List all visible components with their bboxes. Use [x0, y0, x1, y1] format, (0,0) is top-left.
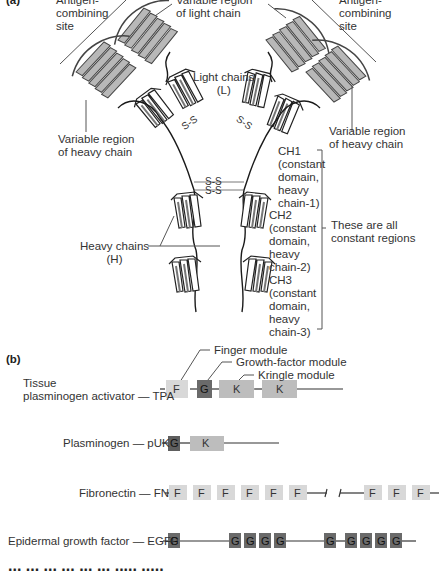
module-f: F [393, 487, 400, 500]
module-k: K [233, 383, 240, 396]
fn-name: Fibronectin — FN [79, 487, 169, 500]
label-line: (constant [269, 287, 316, 300]
label-line: of heavy chain [58, 146, 135, 159]
label-line: chain-3) [269, 326, 316, 339]
module-g: G [246, 535, 255, 548]
hinge-disulfide-bottom: S-S [205, 184, 222, 197]
egfp-name: Epidermal growth factor — EGFP [8, 535, 179, 548]
label-line: domain, [278, 171, 325, 184]
antigen-site-label-left: Antigen- combining site [56, 0, 108, 33]
ch3-label: CH3 (constant domain, heavy chain-3) [269, 274, 316, 339]
label-line: CH3 [269, 274, 316, 287]
module-f: F [222, 487, 229, 500]
label-line: of light chain [176, 7, 253, 20]
module-f: F [174, 487, 181, 500]
module-g: G [261, 535, 270, 548]
label-line: of heavy chain [329, 138, 406, 151]
label-line: (L) [193, 84, 254, 97]
label-line: combining [339, 7, 391, 20]
module-g: G [347, 535, 356, 548]
variable-heavy-label-left: Variable region of heavy chain [58, 133, 135, 159]
label-line: heavy [278, 184, 325, 197]
label-line: combining [56, 7, 108, 20]
panel-b-label: (b) [6, 353, 21, 365]
light-chains-label: Light chains (L) [193, 71, 254, 97]
ch2-label: CH2 (constant domain, heavy chain-2) [269, 209, 316, 274]
label-line: Antigen- [339, 0, 391, 7]
legend-kringle-module: Kringle module [258, 369, 335, 382]
label-line: CH1 [278, 145, 325, 158]
label-line: Variable region [58, 133, 135, 146]
module-g: G [377, 535, 386, 548]
module-g: G [326, 535, 335, 548]
tpa-name: Tissue plasminogen activator — TPA [23, 377, 174, 403]
label-line: Antigen- [56, 0, 108, 7]
module-k: K [276, 383, 283, 396]
ch1-label: CH1 (constant domain, heavy chain-1) [278, 145, 325, 210]
module-f: F [294, 487, 301, 500]
label-line: (constant [269, 222, 316, 235]
label-line: site [339, 20, 391, 33]
module-g: G [276, 535, 285, 548]
module-g: G [392, 535, 401, 548]
label-line: chain-2) [269, 261, 316, 274]
module-f: F [246, 487, 253, 500]
module-f: F [417, 487, 424, 500]
module-f: F [369, 487, 376, 500]
label-line: (constant [278, 158, 325, 171]
label-line: These are all [331, 219, 415, 232]
label-line: CH2 [269, 209, 316, 222]
label-line: heavy [269, 313, 316, 326]
caption-fragment: ... ... ... ... ... ... ..... ..... [8, 557, 164, 575]
antigen-site-label-right: Antigen- combining site [339, 0, 391, 33]
module-g: G [231, 535, 240, 548]
module-f: F [270, 487, 277, 500]
label-line: domain, [269, 300, 316, 313]
label-line: domain, [269, 235, 316, 248]
label-line: constant regions [331, 232, 415, 245]
label-line: Heavy chains [80, 240, 149, 253]
tpa-row [160, 380, 343, 398]
module-f: F [198, 487, 205, 500]
module-f: F [173, 383, 180, 396]
panel-a-label: (a) [6, 0, 20, 6]
label-line: heavy [269, 248, 316, 261]
heavy-chains-label: Heavy chains (H) [80, 240, 149, 266]
label-line: plasminogen activator — TPA [23, 390, 174, 403]
module-k: K [202, 437, 209, 450]
constant-regions-note: These are all constant regions [331, 219, 415, 245]
module-g: G [170, 437, 179, 450]
legend-growth-factor-module: Growth-factor module [236, 356, 347, 369]
label-line: Variable region [329, 125, 406, 138]
module-g: G [200, 383, 209, 396]
module-g: G [362, 535, 371, 548]
label-line: site [56, 20, 108, 33]
module-g: G [170, 535, 179, 548]
label-line: Light chains [193, 71, 254, 84]
puk-name: Plasminogen — pUK [63, 437, 170, 450]
label-line: Variable region [176, 0, 253, 7]
variable-light-label: Variable region of light chain [176, 0, 253, 20]
variable-heavy-label-right: Variable region of heavy chain [329, 125, 406, 151]
label-line: Tissue [23, 377, 174, 390]
label-line: (H) [80, 253, 149, 266]
puk-row [162, 436, 279, 451]
